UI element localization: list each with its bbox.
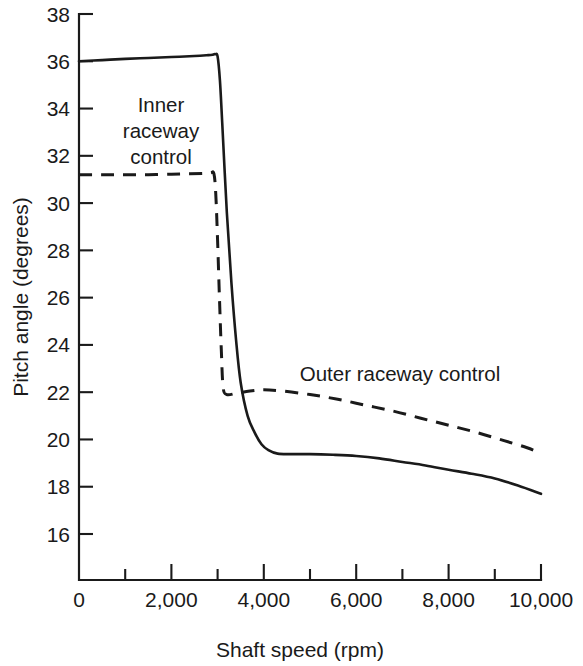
- x-tick-label: 2,000: [145, 588, 198, 611]
- y-axis-ticks: [79, 14, 93, 534]
- x-tick-label: 4,000: [238, 588, 291, 611]
- y-tick-label: 38: [47, 3, 70, 26]
- outer-raceway-annotation: Outer raceway control: [300, 362, 501, 385]
- x-tick-label: 8,000: [422, 588, 475, 611]
- y-tick-label: 18: [47, 475, 70, 498]
- inner-raceway-annotation-line3: control: [130, 145, 192, 168]
- chart-container: 161820222426283032343638 02,0004,0006,00…: [0, 0, 583, 666]
- y-tick-label: 36: [47, 50, 70, 73]
- y-tick-label: 20: [47, 428, 70, 451]
- y-tick-label: 24: [47, 333, 71, 356]
- series-dashed: [79, 172, 541, 454]
- y-tick-label: 16: [47, 523, 70, 546]
- x-axis-title: Shaft speed (rpm): [216, 638, 384, 661]
- x-tick-label: 0: [73, 588, 85, 611]
- y-axis-title: Pitch angle (degrees): [9, 197, 32, 397]
- inner-raceway-annotation-line1: Inner: [138, 93, 185, 116]
- x-axis-ticks: [125, 564, 541, 580]
- y-tick-label: 34: [47, 97, 71, 120]
- y-tick-label: 22: [47, 381, 70, 404]
- y-tick-label: 32: [47, 144, 70, 167]
- x-tick-label: 10,000: [509, 588, 573, 611]
- x-tick-label: 6,000: [330, 588, 383, 611]
- y-axis-tick-labels: 161820222426283032343638: [47, 3, 71, 546]
- y-tick-label: 28: [47, 239, 70, 262]
- y-tick-label: 26: [47, 286, 70, 309]
- y-tick-label: 30: [47, 192, 70, 215]
- inner-raceway-annotation-line2: raceway: [123, 119, 200, 142]
- pitch-angle-vs-shaft-speed-chart: 161820222426283032343638 02,0004,0006,00…: [0, 0, 583, 666]
- x-axis-tick-labels: 02,0004,0006,0008,00010,000: [73, 588, 573, 611]
